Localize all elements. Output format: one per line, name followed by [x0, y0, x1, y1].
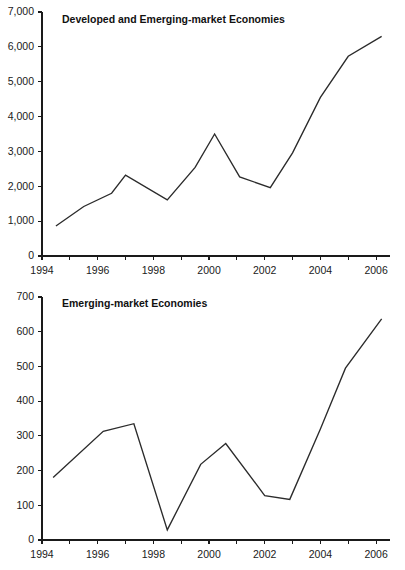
chart-panel-emerging-market: 0100200300400500600700 19941996199820002… [0, 285, 405, 570]
y-axis-group-bottom: 0100200300400500600700 [16, 290, 42, 545]
x-tick-label: 2004 [309, 548, 333, 560]
x-tick-marks [42, 256, 376, 260]
y-tick-label: 600 [16, 325, 34, 337]
x-tick-label: 1994 [30, 264, 54, 276]
x-axis-group-top: 1994199619982000200220042006 [30, 256, 390, 276]
x-tick-label: 2006 [364, 264, 388, 276]
y-tick-labels: 0100200300400500600700 [16, 290, 34, 545]
y-tick-label: 5,000 [8, 75, 34, 87]
x-tick-label: 1996 [86, 264, 110, 276]
y-tick-label: 0 [28, 249, 34, 261]
y-tick-label: 3,000 [8, 145, 34, 157]
x-tick-label: 1996 [86, 548, 110, 560]
chart-title-bottom: Emerging-market Economies [62, 297, 207, 309]
x-tick-label: 1998 [142, 548, 166, 560]
y-tick-label: 1,000 [8, 214, 34, 226]
y-tick-label: 100 [16, 499, 34, 511]
x-tick-label: 1994 [30, 548, 54, 560]
y-tick-label: 4,000 [8, 110, 34, 122]
y-tick-marks [38, 12, 42, 256]
two-panel-line-chart-figure: 01,0002,0003,0004,0005,0006,0007,000 199… [0, 0, 405, 570]
x-tick-labels: 1994199619982000200220042006 [30, 548, 388, 560]
chart-title-top: Developed and Emerging-market Economies [62, 13, 285, 25]
y-tick-label: 6,000 [8, 40, 34, 52]
y-axis-group-top: 01,0002,0003,0004,0005,0006,0007,000 [8, 5, 42, 261]
x-tick-label: 2000 [197, 264, 221, 276]
x-tick-label: 2002 [253, 264, 277, 276]
y-tick-label: 2,000 [8, 180, 34, 192]
y-tick-label: 700 [16, 290, 34, 302]
x-tick-labels: 1994199619982000200220042006 [30, 264, 388, 276]
data-series-line [53, 319, 382, 530]
chart-svg-top: 01,0002,0003,0004,0005,0006,0007,000 199… [0, 0, 405, 285]
y-tick-marks [38, 297, 42, 540]
x-tick-label: 1998 [142, 264, 166, 276]
x-tick-label: 2006 [364, 548, 388, 560]
y-tick-label: 500 [16, 360, 34, 372]
x-tick-label: 2004 [309, 264, 333, 276]
chart-panel-developed-and-emerging: 01,0002,0003,0004,0005,0006,0007,000 199… [0, 0, 405, 285]
y-tick-label: 7,000 [8, 5, 34, 17]
x-tick-label: 2002 [253, 548, 277, 560]
y-tick-label: 0 [28, 533, 34, 545]
y-tick-label: 300 [16, 429, 34, 441]
data-series-line [56, 36, 382, 226]
x-tick-marks [42, 540, 376, 544]
x-tick-label: 2000 [197, 548, 221, 560]
y-tick-label: 200 [16, 464, 34, 476]
x-axis-group-bottom: 1994199619982000200220042006 [30, 540, 390, 560]
chart-svg-bottom: 0100200300400500600700 19941996199820002… [0, 285, 405, 570]
y-tick-label: 400 [16, 394, 34, 406]
y-tick-labels: 01,0002,0003,0004,0005,0006,0007,000 [8, 5, 34, 261]
